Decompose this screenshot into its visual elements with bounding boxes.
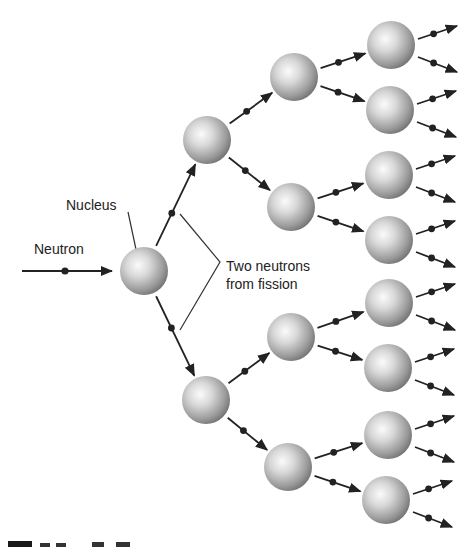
neutron-dot [425, 515, 432, 522]
two-neutrons-label-line1: Two neutrons [226, 258, 310, 274]
neutron-dot [240, 427, 247, 434]
nucleus-sphere [183, 116, 231, 164]
neutron-arrow [417, 122, 456, 137]
neutron-arrow [413, 481, 452, 494]
neutron-arrow [321, 53, 366, 68]
neutron-dot [427, 420, 434, 427]
neutron-arrow [156, 164, 195, 245]
neutron-arrow [230, 93, 272, 124]
neutron-arrow [415, 349, 454, 362]
nucleus-pointer-line [128, 212, 137, 254]
neutron-dot [332, 348, 339, 355]
neutron-arrow [416, 221, 455, 234]
neutron-dot [428, 225, 435, 232]
neutron-arrow [416, 156, 455, 169]
nucleus-sphere [267, 313, 315, 361]
neutron-dot [427, 383, 434, 390]
neutron-dot [430, 30, 437, 37]
neutron-arrow [320, 86, 364, 101]
neutron-arrow [416, 187, 455, 202]
neutron-arrow [418, 57, 457, 72]
incoming-neutron [22, 267, 112, 274]
neutron-arrow [416, 284, 455, 297]
neutron-dot [427, 353, 434, 360]
neutron-dot [429, 95, 436, 102]
nucleus-sphere [120, 247, 168, 295]
nucleus-sphere [366, 86, 414, 134]
neutron-dot [241, 368, 248, 375]
nucleus-sphere [362, 476, 410, 524]
neutron-dot [335, 59, 342, 66]
neutron-dot [428, 288, 435, 295]
neutron-arrow [229, 157, 270, 190]
neutron-dot [243, 108, 250, 115]
neutron-arrow [315, 476, 361, 491]
neutron-arrow [416, 252, 455, 267]
neutron-arrow [413, 512, 452, 527]
neutron-dot [332, 219, 339, 226]
two-neutrons-label-line2: from fission [226, 276, 298, 292]
nucleus-sphere [267, 183, 315, 231]
neutron-arrow [318, 346, 363, 360]
nucleus-sphere [364, 344, 412, 392]
neutron-dot [329, 479, 336, 486]
neutron-dot [428, 190, 435, 197]
neutron-dot [430, 60, 437, 67]
neutron-label: Neutron [34, 241, 84, 257]
neutron-dot [428, 255, 435, 262]
nucleus-sphere [365, 151, 413, 199]
nucleus-sphere [367, 21, 415, 69]
neutron-arrow [416, 315, 455, 330]
neutron-arrow [417, 91, 456, 104]
neutron-dot [330, 449, 337, 456]
two-neutrons-bracket [180, 214, 220, 330]
neutron-arrow [228, 418, 267, 450]
neutron-arrow [415, 447, 454, 462]
nucleus-sphere [365, 279, 413, 327]
neutron-arrow [156, 296, 194, 375]
neutron-dot [242, 167, 249, 174]
neutron-arrow [318, 183, 364, 198]
neutron-arrow [318, 216, 364, 231]
neutron-arrow [317, 312, 363, 328]
neutron-dot [428, 160, 435, 167]
neutron-dot [332, 318, 339, 325]
neutron-dot [168, 210, 175, 217]
nucleus-label: Nucleus [66, 197, 117, 213]
nucleus-sphere [182, 376, 230, 424]
neutron-dot [333, 189, 340, 196]
neutron-dot [428, 318, 435, 325]
neutron-arrow [315, 443, 363, 458]
nucleus-sphere [264, 443, 312, 491]
neutron-arrow [415, 380, 454, 395]
neutron-dot [168, 325, 175, 332]
fission-chain-reaction-diagram: Neutron Nucleus Two neutrons from fissio… [0, 0, 468, 547]
neutron-dot [427, 450, 434, 457]
neutron-arrow [418, 26, 457, 39]
neutron-dot [425, 485, 432, 492]
neutron-dot [429, 125, 436, 132]
neutron-arrow [228, 353, 269, 383]
neutron-dot [335, 89, 342, 96]
figure-caption-cropped [8, 541, 130, 547]
nucleus-sphere [364, 411, 412, 459]
nucleus-sphere [270, 53, 318, 101]
neutron-arrow [415, 416, 454, 429]
nucleus-sphere [365, 216, 413, 264]
